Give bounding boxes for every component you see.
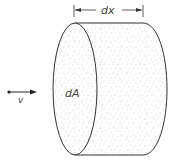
velocity-vector: v <box>7 90 37 106</box>
dx-dimension: dx <box>74 4 143 17</box>
arrow-head-icon <box>30 90 37 95</box>
cylinder-diagram: dx v dA <box>0 0 173 162</box>
velocity-label: v <box>18 95 24 105</box>
area-label: dA <box>65 87 80 100</box>
dx-label: dx <box>101 4 115 17</box>
